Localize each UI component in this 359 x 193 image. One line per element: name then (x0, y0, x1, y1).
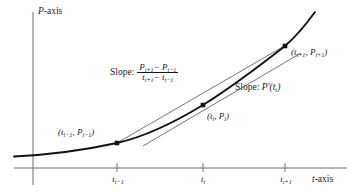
secant-slope-annotation: Slope: Pi+1− Pi−1 ti+1− ti−1 (110, 63, 178, 82)
point-middle-mid: , P (214, 111, 224, 121)
figure-canvas: P-axis t-axis ti−1 ti ti+1 (ti−1, Pi−1) … (0, 0, 359, 193)
tick-label-t-i: ti (193, 175, 213, 184)
point-right-sub2: i+1 (315, 52, 324, 58)
marker-point-left (115, 141, 120, 146)
tick-2-sub: i (203, 179, 205, 185)
point-label-left: (ti−1, Pi−1) (58, 128, 94, 137)
tangent-slope-annotation: Slope: P′(ti) (235, 83, 280, 93)
tick-1-sub: i−1 (115, 179, 124, 185)
p-axis-label: P-axis (38, 7, 62, 17)
point-left-mid: , P (72, 127, 82, 137)
tick-3-sub: i+1 (283, 179, 292, 185)
marker-point-middle (201, 103, 206, 108)
p-axis-label-suffix: -axis (44, 6, 62, 16)
secant-den-op: − t (154, 72, 165, 82)
point-label-right: (ti+1, Pi+1) (291, 48, 327, 57)
point-left-sub2: i−1 (82, 132, 91, 138)
secant-slope-prefix: Slope: (110, 68, 134, 78)
secant-den-a-sub: i+1 (145, 76, 154, 82)
point-right-close: ) (324, 47, 327, 57)
t-axis-label: t-axis (312, 175, 333, 185)
tick-label-t-i-plus-1: ti+1 (274, 175, 298, 184)
point-left-close: ) (91, 127, 94, 137)
secant-num-b-sub: i−1 (167, 66, 176, 72)
secant-denominator: ti+1− ti−1 (137, 73, 178, 82)
secant-den-b-sub: i−1 (164, 76, 173, 82)
secant-slope-fraction: Pi+1− Pi−1 ti+1− ti−1 (137, 63, 178, 82)
tick-label-t-i-minus-1: ti−1 (106, 175, 130, 184)
marker-point-right (283, 44, 288, 49)
tangent-slope-expression: P′(t (262, 82, 276, 92)
secant-line (117, 45, 286, 143)
diagram-svg (0, 0, 359, 193)
t-axis-label-suffix: -axis (315, 174, 333, 184)
point-middle-close: ) (226, 111, 229, 121)
tangent-slope-prefix: Slope: (235, 82, 259, 92)
secant-num-op: − P (154, 62, 168, 72)
point-right-mid: , P (305, 47, 315, 57)
secant-num-a-sub: i+1 (145, 66, 154, 72)
tangent-slope-close: ) (277, 82, 280, 92)
point-label-middle: (ti, Pi) (207, 112, 229, 121)
